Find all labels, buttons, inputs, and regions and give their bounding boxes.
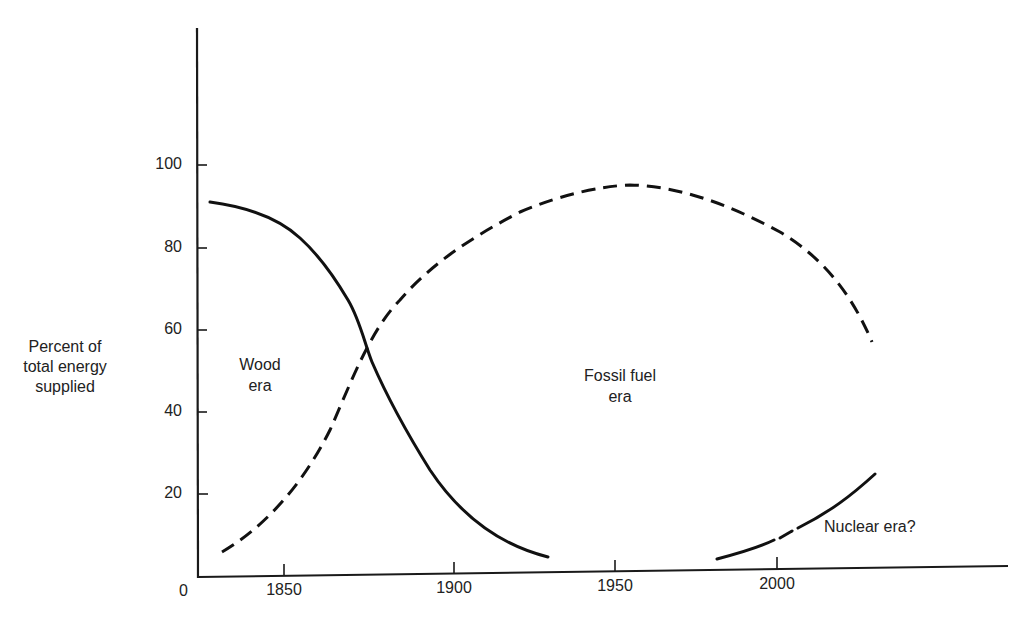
fossil-fuel-era-label: Fossil fuel era [570,365,670,407]
y-axis-title-line-2: total energy [0,357,135,377]
x-tick-label-1850: 1850 [254,581,314,599]
fossil-fuel-era-line-2: era [570,386,670,407]
y-axis-title: Percent of total energy supplied [0,337,135,397]
origin-label: 0 [179,582,188,600]
y-axis-title-line-1: Percent of [0,337,135,357]
wood-era-line-1: Wood [228,354,292,375]
y-tick-label-20: 20 [142,484,182,502]
fossil-fuel-curve [222,185,872,552]
wood-era-label: Wood era [228,354,292,396]
y-tick-label-80: 80 [142,238,182,256]
fossil-fuel-era-line-1: Fossil fuel [570,365,670,386]
y-tick-label-40: 40 [142,402,182,420]
x-tick-label-2000: 2000 [747,575,807,593]
y-tick-label-100: 100 [142,155,182,173]
nuclear-curve [717,540,774,559]
y-axis-title-line-3: supplied [0,377,135,397]
y-axis [197,28,198,578]
wood-era-line-2: era [228,375,292,396]
x-tick-label-1950: 1950 [585,577,645,595]
x-tick-label-1900: 1900 [424,579,484,597]
nuclear-curve-dash [780,531,792,538]
nuclear-era-label: Nuclear era? [824,518,916,536]
x-axis [198,566,1008,577]
y-tick-label-60: 60 [142,320,182,338]
